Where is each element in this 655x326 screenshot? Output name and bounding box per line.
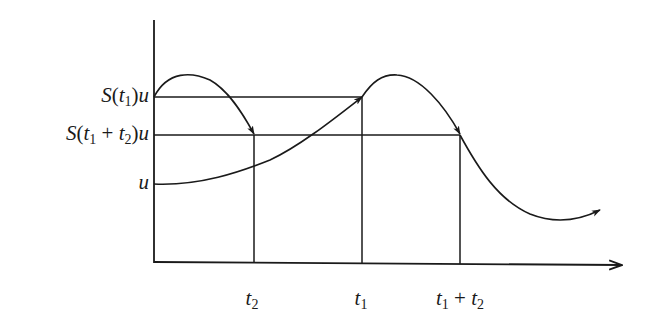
y-label-func: S [66, 121, 77, 145]
orbit-curve-from-s-t1-u [154, 75, 254, 134]
x-label-t2: t2 [246, 288, 259, 312]
y-label-func: S [101, 83, 112, 107]
y-label-close-paren: ) [132, 83, 139, 107]
y-label-plus: + [96, 121, 118, 145]
x-label-sub: 1 [360, 297, 367, 312]
x-label-t1-plus-t2: t1 + t2 [436, 288, 484, 312]
y-label-s-t1t2-u: S(t1 + t2)u [66, 123, 149, 147]
y-label-u: u [139, 172, 150, 193]
y-label-open-paren: ( [112, 83, 119, 107]
y-label-s-t1-u: S(t1)u [101, 85, 149, 109]
y-label-suffix: u [139, 170, 150, 194]
x-label-plus: + [449, 286, 471, 310]
x-label-sub: 2 [251, 297, 258, 312]
orbit-diagram [0, 0, 655, 326]
orbit-curve-from-u [154, 97, 362, 184]
y-label-sub2: 2 [125, 132, 132, 147]
x-label-t1: t1 [355, 288, 368, 312]
orbit-curve-continuation [362, 75, 460, 134]
x-label-sub: 1 [442, 297, 449, 312]
y-label-suffix: u [139, 121, 150, 145]
y-label-suffix: u [139, 83, 150, 107]
x-label-sub2: 2 [477, 297, 484, 312]
y-label-sub: 1 [125, 94, 132, 109]
x-axis [154, 262, 622, 265]
y-label-close-paren: ) [132, 121, 139, 145]
orbit-curve-tail [460, 135, 600, 220]
